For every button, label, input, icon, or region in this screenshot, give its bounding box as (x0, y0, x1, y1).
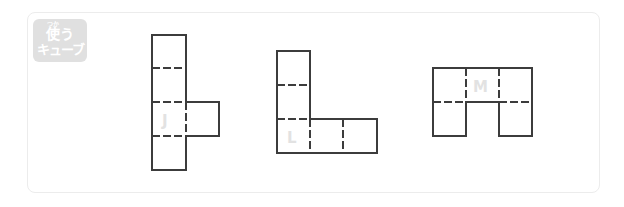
label-l: L (287, 129, 297, 147)
label-m: M (473, 78, 488, 96)
label-j: J (161, 112, 168, 130)
nets-diagram: J L M (0, 0, 624, 207)
net-j (152, 35, 219, 170)
